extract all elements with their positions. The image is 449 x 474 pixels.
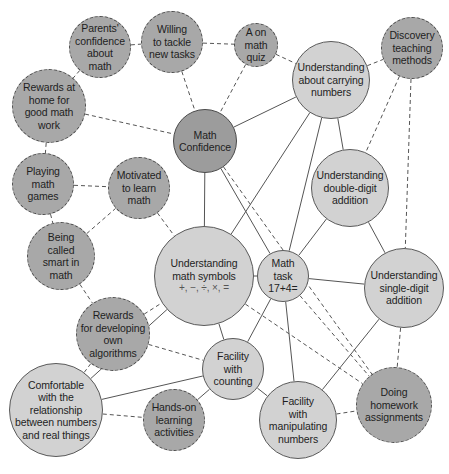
edge-algorithms-comfortable	[84, 364, 91, 373]
edge-rewards_home-confidence	[85, 114, 174, 134]
node-label: Discovery teaching methods	[387, 29, 436, 67]
node-carrying: Understanding about carrying numbers	[292, 41, 370, 119]
node-rewards_home: Rewards at home for good math work	[12, 69, 86, 143]
node-motivated: Motivated to learn math	[108, 157, 170, 219]
edge-discovery-single	[405, 79, 411, 248]
node-label: Understanding about carrying numbers	[296, 61, 367, 99]
node-label: Understanding math symbols+, −, ÷, ×, =	[169, 257, 240, 295]
edge-counting-manipulating	[257, 388, 267, 396]
edge-carrying-double	[338, 118, 343, 149]
edge-discovery-double	[366, 76, 400, 152]
node-task: Math task 17+4=	[257, 250, 309, 302]
edge-task-manipulating	[286, 302, 294, 381]
node-parents: Parents' confidence about math	[69, 16, 131, 78]
node-label: Facility with manipulating numbers	[267, 395, 329, 445]
node-single: Understanding single-digit addition	[364, 248, 444, 328]
node-label: Math Confidence	[177, 129, 233, 154]
edge-quiz-carrying	[276, 54, 296, 63]
node-handson: Hands-on learning activities	[143, 389, 205, 451]
node-algorithms: Rewards for developing own algorithms	[76, 297, 150, 371]
edge-willing-quiz	[203, 43, 234, 44]
node-label: Willing to tackle new tasks	[147, 23, 197, 61]
node-label: Doing homework assignments	[363, 386, 425, 424]
node-label: Rewards for developing own algorithms	[79, 309, 148, 359]
edge-task-single	[309, 279, 364, 285]
node-manipulating: Facility with manipulating numbers	[259, 381, 337, 459]
node-comfortable: Comfortable with the relationship betwee…	[9, 363, 103, 457]
node-label: Comfortable with the relationship betwee…	[13, 379, 99, 442]
node-confidence: Math Confidence	[173, 109, 237, 173]
node-willing: Willing to tackle new tasks	[141, 11, 203, 73]
edge-double-task	[299, 219, 327, 255]
edge-quiz-confidence	[220, 64, 246, 112]
edge-parents-willing	[131, 44, 141, 45]
edge-carrying-discovery	[367, 59, 383, 65]
node-smart: Being called smart in math	[27, 222, 95, 290]
edge-single-homework	[397, 328, 400, 367]
node-sublabel: +, −, ÷, ×, =	[171, 282, 238, 295]
node-symbols: Understanding math symbols+, −, ÷, ×, =	[154, 226, 254, 326]
node-discovery: Discovery teaching methods	[381, 17, 443, 79]
edge-manipulating-homework	[337, 411, 357, 414]
edge-smart-algorithms	[80, 284, 93, 303]
node-label: Understanding double-digit addition	[315, 169, 386, 207]
edge-comfortable-handson	[103, 414, 143, 417]
node-games: Playing math games	[12, 153, 74, 215]
concept-map: Parents' confidence about mathWilling to…	[0, 0, 449, 474]
edge-algorithms-counting	[149, 344, 204, 360]
edge-counting-handson	[198, 389, 210, 399]
edge-smart-motivated	[87, 208, 116, 233]
node-label: Math task 17+4=	[266, 257, 299, 295]
node-quiz: A on math quiz	[234, 23, 278, 67]
edge-rewards_home-games	[45, 143, 46, 153]
edge-games-motivated	[74, 185, 108, 186]
node-label: Being called smart in math	[41, 231, 82, 281]
node-homework: Doing homework assignments	[356, 367, 432, 443]
edge-willing-confidence	[182, 71, 195, 110]
node-counting: Facility with counting	[202, 338, 264, 400]
edge-symbols-counting	[219, 324, 224, 340]
node-label: Playing math games	[24, 165, 62, 203]
node-label: Rewards at home for good math work	[21, 81, 77, 131]
edge-confidence-carrying	[234, 97, 296, 127]
edge-games-smart	[51, 214, 53, 223]
edge-task-counting	[248, 299, 271, 342]
node-label: Facility with counting	[212, 350, 255, 388]
node-label: Motivated to learn math	[115, 169, 164, 207]
node-label: Parents' confidence about math	[73, 22, 127, 72]
node-label: Hands-on learning activities	[150, 401, 199, 439]
edge-motivated-symbols	[157, 213, 174, 236]
node-label: Understanding single-digit addition	[369, 269, 440, 307]
edge-double-single	[369, 222, 386, 253]
node-double: Understanding double-digit addition	[311, 149, 389, 227]
node-label: A on math quiz	[243, 26, 270, 64]
